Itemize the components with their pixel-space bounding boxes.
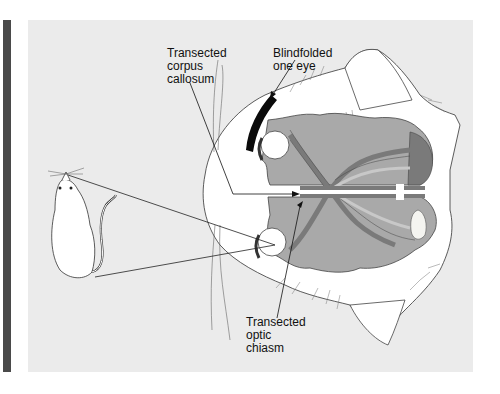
rat bbox=[48, 168, 116, 278]
label-transected-corpus-callosum: Transected corpus callosum bbox=[167, 47, 227, 86]
label-blindfolded-one-eye: Blindfolded one eye bbox=[273, 47, 332, 73]
label-transected-optic-chiasm: Transected optic chiasm bbox=[246, 316, 306, 355]
